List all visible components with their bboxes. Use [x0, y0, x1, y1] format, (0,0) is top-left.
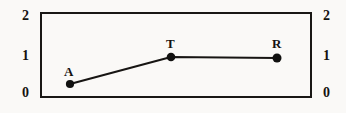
- data-point-t-label: T: [166, 36, 175, 51]
- data-point-r-marker[interactable]: [273, 54, 282, 63]
- data-point-a-marker[interactable]: [66, 80, 74, 88]
- plot-frame: [41, 13, 311, 97]
- data-point-a-label: A: [64, 64, 74, 79]
- y-axis-right-tick-0: 0: [323, 85, 330, 100]
- y-axis-left-tick-1: 1: [22, 48, 29, 63]
- y-axis-left-tick-2: 2: [22, 8, 29, 23]
- y-axis-left-tick-0: 0: [22, 85, 29, 100]
- data-point-t-marker[interactable]: [167, 53, 176, 62]
- y-axis-right-tick-1: 1: [323, 48, 330, 63]
- line-chart: A T R 2 1 0 2 1 0: [0, 0, 346, 113]
- series-line: [70, 57, 277, 84]
- chart-screenshot: A T R 2 1 0 2 1 0: [0, 0, 346, 113]
- data-point-r-label: R: [272, 36, 282, 51]
- y-axis-right-tick-2: 2: [323, 8, 330, 23]
